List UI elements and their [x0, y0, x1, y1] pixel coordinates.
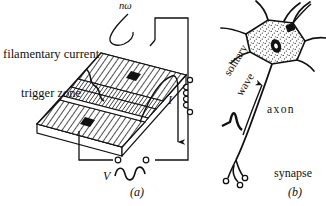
ac-source-waveform	[115, 167, 145, 180]
synapse-bouton-3	[242, 175, 247, 180]
label-synapse: synapse	[274, 167, 312, 179]
drive-lead-curl	[110, 14, 133, 45]
label-current: I	[168, 94, 172, 106]
terminal-coil-top	[187, 77, 192, 82]
label-axon: axon	[267, 104, 295, 116]
panel-b-neuron	[221, 1, 326, 188]
synapse-bouton-1	[223, 178, 228, 183]
label-voltage: V	[103, 170, 110, 182]
terminal-coil-bottom	[187, 109, 192, 114]
caption-panel-a: (a)	[130, 186, 144, 198]
wire-top-stub	[150, 40, 155, 46]
figure-semiconductor-neuron-analogy: filamentary current trigger zone nω I V …	[0, 0, 326, 206]
caption-panel-b: (b)	[288, 186, 302, 198]
axon-terminals	[228, 160, 243, 182]
solitary-wave-pulse	[222, 113, 242, 130]
inductor-coil	[184, 84, 189, 108]
label-filamentary-current: filamentary current	[3, 48, 99, 61]
label-trigger-zone: trigger zone	[21, 87, 81, 100]
synapse-bouton-2	[237, 182, 242, 187]
terminal-source-right	[143, 157, 149, 163]
label-drive-frequency: nω	[119, 1, 132, 12]
terminal-source-left	[115, 157, 121, 163]
